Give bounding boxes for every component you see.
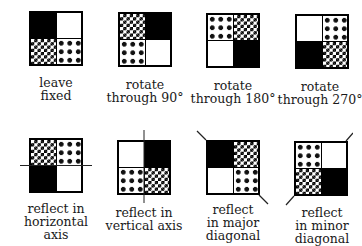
quadrant-checker <box>296 169 321 194</box>
quadrant-square <box>29 138 83 193</box>
label-line: diagonal <box>206 229 260 242</box>
quadrant-black <box>145 142 170 167</box>
figure-label: rotate through 90° <box>107 78 184 104</box>
quadrant-black <box>31 166 56 191</box>
quadrant-checker <box>145 168 170 193</box>
quadrant-white <box>297 16 322 41</box>
quadrant-checker <box>323 42 348 67</box>
quadrant-diamond <box>208 15 233 40</box>
quadrant-checker <box>120 14 145 39</box>
quadrant-diamond <box>234 168 259 193</box>
quadrant-diamond <box>57 39 82 64</box>
label-line: vertical axis <box>106 219 183 232</box>
quadrant-black <box>31 13 56 38</box>
quadrant-diamond <box>323 16 348 41</box>
quadrant-black <box>297 42 322 67</box>
minor-diagonal-line-bottom <box>286 196 294 205</box>
quadrant-white <box>322 143 347 168</box>
quadrant-square <box>117 140 171 195</box>
quadrant-square <box>206 13 260 68</box>
quadrant-checker <box>31 140 56 165</box>
quadrant-checker <box>234 142 259 167</box>
label-line: fixed <box>39 89 72 102</box>
quadrant-white <box>208 41 233 66</box>
label-line: through 270° <box>278 93 362 106</box>
label-line: axis <box>24 228 88 241</box>
minor-diagonal-line-top <box>346 133 353 141</box>
quadrant-square <box>29 11 83 66</box>
label-line: through 90° <box>107 91 184 104</box>
figure-label: reflect in major diagonal <box>206 203 260 242</box>
major-diagonal-line-bottom <box>259 195 268 204</box>
figure-label: rotate through 180° <box>191 79 276 105</box>
quadrant-square <box>295 14 349 69</box>
quadrant-checker <box>234 15 259 40</box>
figure-label: reflect in minor diagonal <box>295 206 349 245</box>
quadrant-white <box>146 40 171 65</box>
label-line: diagonal <box>295 232 349 245</box>
quadrant-diamond <box>120 40 145 65</box>
quadrant-black <box>146 14 171 39</box>
quadrant-black <box>208 142 233 167</box>
quadrant-square <box>206 140 260 195</box>
quadrant-white <box>57 166 82 191</box>
quadrant-black <box>322 169 347 194</box>
quadrant-white <box>57 13 82 38</box>
quadrant-diamond <box>57 140 82 165</box>
quadrant-diamond <box>119 168 144 193</box>
quadrant-diamond <box>296 143 321 168</box>
figure-label: reflect in vertical axis <box>106 206 183 232</box>
quadrant-checker <box>31 39 56 64</box>
figure-label: leave fixed <box>39 76 72 102</box>
quadrant-white <box>119 142 144 167</box>
quadrant-black <box>234 41 259 66</box>
figure-label: rotate through 270° <box>278 80 362 106</box>
quadrant-white <box>208 168 233 193</box>
major-diagonal-line-top <box>197 131 206 140</box>
quadrant-square <box>294 141 348 196</box>
figure-label: reflect in horizontal axis <box>24 202 88 241</box>
quadrant-square <box>118 12 172 67</box>
label-line: through 180° <box>191 92 276 105</box>
